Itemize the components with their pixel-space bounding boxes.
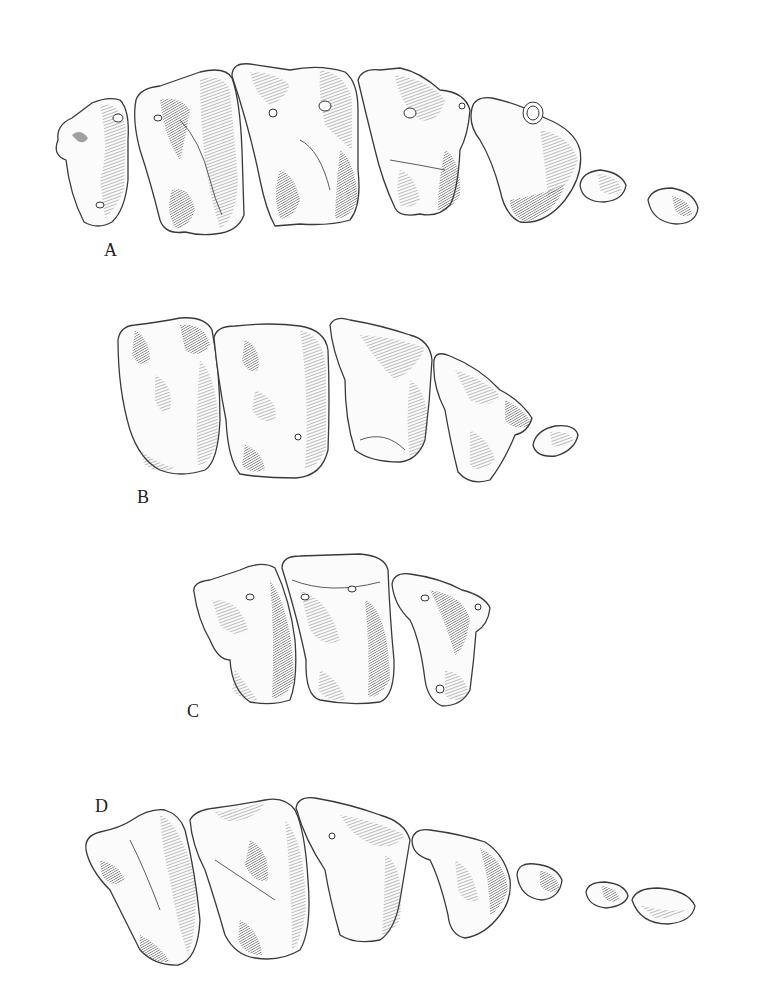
teeth-drawing [0,0,762,1005]
panel-d-tooth-3 [296,798,410,942]
panel-c-tooth-row [194,554,490,706]
panel-b-tooth-1 [118,318,220,474]
panel-a-tooth-7 [648,188,698,224]
panel-label-b: B [137,488,149,506]
panel-a-tooth-6 [580,170,626,202]
panel-a-tooth-1 [56,99,128,226]
panel-label-a: A [104,241,117,259]
panel-b-tooth-row [118,318,578,482]
panel-b-tooth-2 [214,324,329,478]
panel-c-tooth-2 [282,554,394,704]
panel-d-tooth-row [86,798,695,965]
panel-d-tooth-7 [632,888,695,924]
panel-d-tooth-2 [190,799,309,959]
panel-label-c: C [187,702,199,720]
panel-d-tooth-6 [586,882,628,908]
panel-a-tooth-2 [135,70,244,235]
panel-a-tooth-row [56,64,698,235]
panel-a-tooth-4 [358,68,470,215]
panel-a-tooth-3 [232,64,359,226]
panel-d-tooth-1 [86,810,200,965]
panel-label-d: D [95,797,108,815]
panel-d-tooth-4 [412,830,510,938]
dental-illustration-figure: A B C D [0,0,762,1005]
panel-a-tooth-5 [471,98,581,223]
panel-b-tooth-4 [434,354,532,482]
panel-d-tooth-5 [517,864,562,900]
panel-b-tooth-3 [330,318,432,462]
panel-c-tooth-1 [194,564,296,703]
panel-c-tooth-3 [392,574,490,706]
panel-b-tooth-5 [533,426,578,457]
